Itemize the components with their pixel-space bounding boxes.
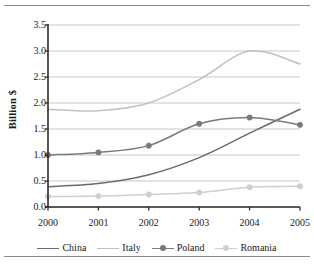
data-point-poland xyxy=(297,122,302,127)
data-point-poland xyxy=(96,150,101,155)
y-tick-label: 2.5 xyxy=(20,72,46,82)
legend-swatch-romania xyxy=(215,244,237,253)
y-tick-label: 0.0 xyxy=(20,202,46,212)
legend-label: Romania xyxy=(240,243,276,253)
series-line-italy xyxy=(48,51,300,111)
data-point-romania xyxy=(297,184,302,189)
x-tick-label: 2004 xyxy=(230,218,270,228)
legend-item-poland[interactable]: Poland xyxy=(152,243,205,253)
data-point-poland xyxy=(197,121,202,126)
x-tick-label: 2002 xyxy=(129,218,169,228)
plot-area: Billion $ 0.00.51.01.52.02.53.03.5 20002… xyxy=(0,8,314,223)
series-line-china xyxy=(48,109,300,186)
data-point-romania xyxy=(247,185,252,190)
x-tick-label: 2000 xyxy=(28,218,68,228)
y-tick-label: 2.0 xyxy=(20,98,46,108)
legend-line-icon xyxy=(97,248,119,250)
legend-marker-icon xyxy=(160,245,166,251)
y-tick-label: 1.0 xyxy=(20,150,46,160)
top-divider xyxy=(4,5,310,6)
legend-label: Poland xyxy=(177,243,205,253)
legend-label: China xyxy=(62,243,86,253)
series-line-romania xyxy=(48,186,300,196)
data-point-romania xyxy=(146,192,151,197)
legend-line-icon xyxy=(37,248,59,250)
x-axis-ticks: 200020012002200320042005 xyxy=(48,218,300,234)
data-point-romania xyxy=(96,193,101,198)
y-tick-label: 3.0 xyxy=(20,46,46,56)
data-point-poland xyxy=(146,143,151,148)
data-point-romania xyxy=(197,190,202,195)
y-tick-label: 1.5 xyxy=(20,124,46,134)
x-tick-label: 2003 xyxy=(179,218,219,228)
legend-marker-icon xyxy=(223,245,229,251)
chart-figure: Billion $ 0.00.51.01.52.02.53.03.5 20002… xyxy=(0,8,314,254)
y-tick-label: 0.5 xyxy=(20,176,46,186)
y-axis-ticks: 0.00.51.01.52.02.53.03.5 xyxy=(18,8,46,223)
legend-item-romania[interactable]: Romania xyxy=(215,243,276,253)
legend-item-china[interactable]: China xyxy=(37,243,86,253)
legend-item-italy[interactable]: Italy xyxy=(97,243,140,253)
chart-legend: ChinaItalyPolandRomania xyxy=(0,240,314,256)
legend-label: Italy xyxy=(122,243,140,253)
legend-swatch-poland xyxy=(152,244,174,253)
y-tick-label: 3.5 xyxy=(20,20,46,30)
bottom-divider xyxy=(4,256,310,257)
y-axis-label: Billion $ xyxy=(7,80,18,140)
chart-canvas xyxy=(0,8,314,223)
data-point-poland xyxy=(247,115,252,120)
x-tick-label: 2005 xyxy=(280,218,314,228)
legend-swatch-china xyxy=(37,244,59,253)
legend-swatch-italy xyxy=(97,244,119,253)
series-line-poland xyxy=(48,118,300,155)
x-tick-label: 2001 xyxy=(78,218,118,228)
